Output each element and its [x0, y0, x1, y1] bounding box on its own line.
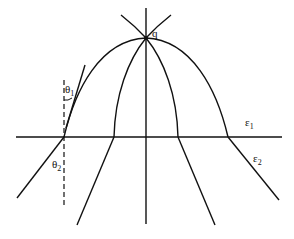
- upper-left-arc: [121, 15, 146, 38]
- ray-inner-left: [77, 137, 114, 225]
- ray-outer-right: [228, 137, 279, 200]
- inner-left-arc: [114, 38, 146, 137]
- label-theta2: θ2: [52, 158, 61, 173]
- refraction-diagram: q θ1 θ2 ε1 ε2: [0, 0, 294, 239]
- label-eps1: ε1: [245, 116, 254, 131]
- label-q: q: [152, 27, 158, 39]
- tangent-line: [66, 65, 85, 128]
- diagram-svg: q θ1 θ2 ε1 ε2: [0, 0, 294, 239]
- upper-right-arc: [146, 15, 171, 38]
- label-theta1: θ1: [65, 83, 74, 98]
- theta1-angle-arc: [64, 98, 72, 100]
- inner-right-arc: [146, 38, 178, 137]
- point-q: [144, 36, 148, 40]
- label-eps2: ε2: [253, 152, 262, 167]
- ray-inner-right: [178, 137, 215, 225]
